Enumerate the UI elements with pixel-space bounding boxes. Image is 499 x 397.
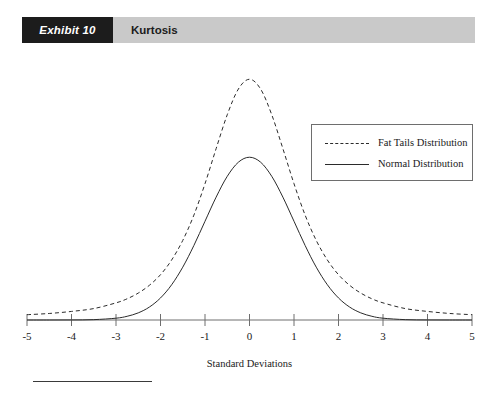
legend-item-fat-tails: Fat Tails Distribution [312, 132, 472, 153]
footer-rule [33, 381, 152, 382]
fat-tails-curve [27, 79, 472, 314]
legend-label-fat-tails: Fat Tails Distribution [369, 137, 468, 148]
dashed-line-swatch-icon [325, 138, 369, 148]
x-axis-tick-label: -5 [22, 330, 31, 342]
normal-curve [27, 157, 472, 320]
kurtosis-chart [0, 46, 499, 346]
exhibit-title: Kurtosis [113, 17, 475, 43]
x-axis-tick-label: -1 [200, 330, 209, 342]
solid-line-swatch-icon [325, 159, 369, 169]
x-axis-tick-label: 4 [425, 330, 431, 342]
chart-svg [0, 46, 499, 346]
x-axis-tick-label: 5 [469, 330, 475, 342]
exhibit-number-tag: Exhibit 10 [22, 17, 113, 43]
legend-label-normal: Normal Distribution [369, 158, 463, 169]
chart-legend: Fat Tails Distribution Normal Distributi… [311, 124, 473, 181]
x-axis-tick-label: -4 [67, 330, 76, 342]
x-axis-tick-label: 2 [336, 330, 342, 342]
x-axis-tick-label: 3 [380, 330, 386, 342]
x-axis-tick-label: -3 [111, 330, 120, 342]
legend-item-normal: Normal Distribution [312, 153, 472, 174]
x-axis-tick-label: -2 [156, 330, 165, 342]
x-axis-tick-label: 1 [291, 330, 297, 342]
x-axis-tick-label: 0 [247, 330, 253, 342]
x-axis-title: Standard Deviations [0, 358, 499, 369]
exhibit-header: Exhibit 10 Kurtosis [22, 17, 475, 43]
